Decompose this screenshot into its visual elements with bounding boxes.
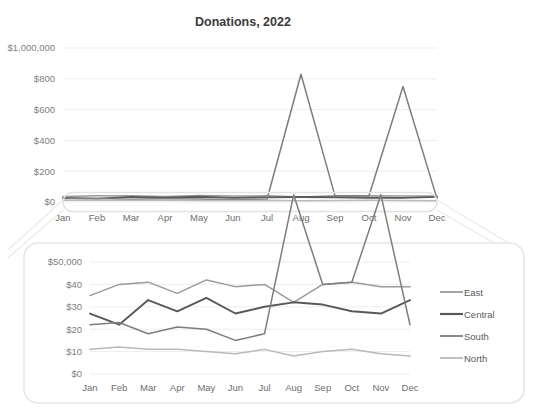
y-tick-label: $1,000,000 <box>7 42 55 53</box>
y-tick-label: $600 <box>34 104 55 115</box>
x-tick-label: Feb <box>89 212 105 223</box>
x-tick-label: May <box>190 212 208 223</box>
x-tick-label: Jul <box>258 382 270 393</box>
x-tick-label: Nov <box>372 382 389 393</box>
page-title: Donations, 2022 <box>195 15 291 29</box>
y-tick-label: $40 <box>66 279 82 290</box>
x-tick-label: Apr <box>170 382 185 393</box>
legend-label-north[interactable]: North <box>464 353 487 364</box>
y-tick-label: $800 <box>34 73 55 84</box>
x-tick-label: Mar <box>123 212 139 223</box>
x-tick-label: Jan <box>82 382 97 393</box>
x-tick-label: Aug <box>285 382 302 393</box>
legend-label-central[interactable]: Central <box>464 309 495 320</box>
y-tick-label: $10 <box>66 346 82 357</box>
x-tick-label: Apr <box>158 212 173 223</box>
series-line-south <box>63 74 437 200</box>
donations-figure: Donations, 2022 $1,000,000$800$600$400$2… <box>0 0 549 420</box>
overview-gridlines <box>63 48 437 202</box>
legend-label-east[interactable]: East <box>464 287 483 298</box>
y-tick-label: $20 <box>66 324 82 335</box>
y-tick-label: $200 <box>34 166 55 177</box>
x-tick-label: Sep <box>314 382 331 393</box>
x-tick-label: Oct <box>344 382 359 393</box>
x-tick-label: May <box>197 382 215 393</box>
x-tick-label: Nov <box>395 212 412 223</box>
series-line-north <box>63 200 437 201</box>
x-tick-label: Feb <box>111 382 127 393</box>
y-tick-label: $0 <box>71 368 82 379</box>
x-tick-label: Jan <box>55 212 70 223</box>
x-tick-label: Dec <box>402 382 419 393</box>
y-tick-label: $0 <box>44 196 55 207</box>
overview-y-axis-labels: $1,000,000$800$600$400$200$0 <box>7 42 55 207</box>
y-tick-label: $50,000 <box>48 256 82 267</box>
y-tick-label: $30 <box>66 301 82 312</box>
legend-label-south[interactable]: South <box>464 331 489 342</box>
chart-canvas: Donations, 2022 $1,000,000$800$600$400$2… <box>0 0 549 420</box>
x-tick-label: Sep <box>327 212 344 223</box>
x-tick-label: Jun <box>225 212 240 223</box>
x-tick-label: Mar <box>140 382 156 393</box>
magnifier-panel <box>24 243 524 403</box>
overview-series-lines <box>63 74 437 201</box>
x-tick-label: Jun <box>228 382 243 393</box>
y-tick-label: $400 <box>34 135 55 146</box>
x-tick-label: Jul <box>261 212 273 223</box>
